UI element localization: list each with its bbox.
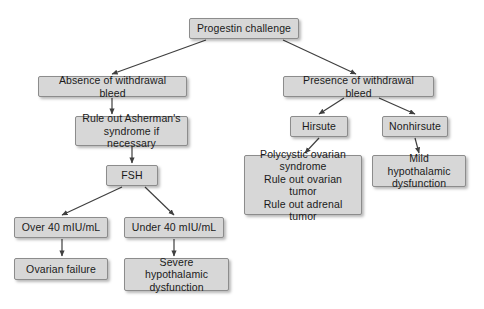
flow-node-label: Mild hypothalamic dysfunction	[379, 152, 459, 190]
flow-node-mild-hypothalamic: Mild hypothalamic dysfunction	[372, 155, 466, 187]
flow-node-label: Hirsute	[302, 120, 336, 133]
flow-node-fsh: FSH	[106, 165, 158, 186]
flow-node-progestin-challenge: Progestin challenge	[189, 18, 299, 39]
flow-node-rule-out-ashermans: Rule out Asherman's syndrome if necessar…	[75, 116, 188, 146]
flow-node-label: Progestin challenge	[197, 22, 291, 35]
flow-node-label: Ovarian failure	[26, 263, 96, 276]
flow-arrow-progestin-to-absence	[112, 40, 206, 74]
flow-node-nonhirsute: Nonhirsute	[382, 116, 448, 137]
flow-node-label: Nonhirsute	[389, 120, 441, 133]
flow-node-ovarian-failure: Ovarian failure	[14, 258, 108, 280]
flow-arrow-fsh-to-over40	[62, 187, 122, 215]
flow-node-severe-hypothalamic: Severe hypothalamic dysfunction	[124, 258, 229, 291]
flow-node-label: Absence of withdrawal bleed	[45, 74, 180, 99]
flow-arrow-fsh-to-under40	[145, 187, 174, 215]
flow-node-absence-withdrawal-bleed: Absence of withdrawal bleed	[38, 76, 187, 97]
flow-arrow-nonhirsute-to-mild-hypo	[415, 138, 419, 153]
flow-arrow-progestin-to-presence	[283, 40, 356, 74]
flow-node-label: Rule out Asherman's syndrome if necessar…	[82, 112, 181, 150]
flow-node-label: Over 40 mIU/mL	[22, 221, 100, 234]
flowchart-canvas: Progestin challengeAbsence of withdrawal…	[0, 0, 484, 309]
flow-node-under-40-miu: Under 40 mIU/mL	[124, 217, 224, 238]
flow-arrow-presence-to-nonhirsute	[379, 98, 415, 114]
flow-node-label: Severe hypothalamic dysfunction	[131, 256, 222, 294]
flow-node-over-40-miu: Over 40 mIU/mL	[14, 217, 108, 238]
flow-node-label: Presence of withdrawal bleed	[290, 74, 427, 99]
flow-node-label: Under 40 mIU/mL	[132, 221, 216, 234]
flow-node-label: Polycystic ovarian syndrome Rule out ova…	[251, 148, 355, 223]
flow-node-label: FSH	[121, 169, 142, 182]
flow-node-polycystic-ovarian-syndrome: Polycystic ovarian syndrome Rule out ova…	[244, 155, 362, 215]
flow-node-hirsute: Hirsute	[290, 116, 348, 137]
flow-arrow-presence-to-hirsute	[319, 98, 344, 114]
flow-node-presence-withdrawal-bleed: Presence of withdrawal bleed	[283, 76, 434, 97]
